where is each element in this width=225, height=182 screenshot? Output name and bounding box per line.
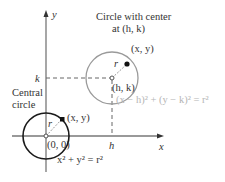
k-label: k xyxy=(35,73,40,84)
translated-center-label: (h, k) xyxy=(112,82,135,94)
translated-center-dot xyxy=(110,76,114,80)
translated-point-dot xyxy=(124,61,129,66)
translated-equation: (x − h)² + (y − k)² = r² xyxy=(116,94,209,106)
central-point-dot xyxy=(60,117,65,122)
central-point-label: (x, y) xyxy=(67,112,90,124)
central-radius-label: r xyxy=(48,118,53,129)
y-axis-label: y xyxy=(51,9,57,20)
title-line-2: at (h, k) xyxy=(112,23,145,35)
x-axis-label: x xyxy=(158,141,164,152)
central-caption-line-1: Central xyxy=(12,87,43,98)
title-line-1: Circle with center xyxy=(96,11,172,22)
central-equation: x² + y² = r² xyxy=(57,154,103,165)
translated-point-label: (x, y) xyxy=(131,43,154,55)
origin-dot xyxy=(44,134,48,138)
circle-translation-diagram: y x k h Circle with center at (h, k) (x,… xyxy=(0,0,225,182)
x-axis xyxy=(12,134,164,139)
h-label: h xyxy=(109,140,114,151)
y-axis-arrow-icon xyxy=(44,10,49,17)
origin-label: (0, 0) xyxy=(47,139,70,151)
x-axis-arrow-icon xyxy=(157,134,164,139)
central-caption-line-2: circle xyxy=(12,99,36,110)
translated-radius-label: r xyxy=(114,58,119,69)
